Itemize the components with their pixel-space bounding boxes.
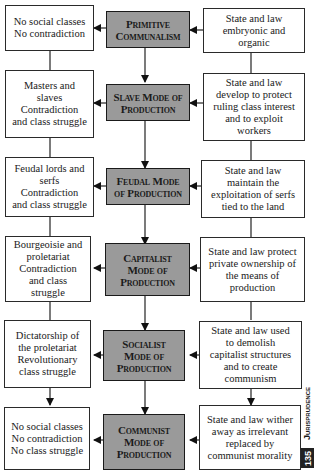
page-number: 135 (301, 448, 314, 468)
stage-6-left-box: No social classes No contradiction No cl… (4, 407, 90, 470)
stage-5-right-box: State and law used to demolish capitalis… (199, 321, 302, 389)
stage-5-left-box: Dictatorship of the proletariat Revoluti… (4, 320, 91, 388)
stage-2-right-box: State and law develop to protect ruling … (203, 73, 305, 141)
stage-5-center-box: Socialist Mode of Production (103, 330, 185, 381)
stage-2-center-box: Slave Mode of Production (106, 84, 190, 121)
stage-2-left-box: Masters and slaves Contradiction and cla… (5, 70, 94, 138)
stage-3-right-box: State and law maintain the exploitation … (201, 160, 305, 218)
stage-1-right-box: State and law embryonic and organic (203, 8, 305, 53)
stage-4-center-box: Capitalist Mode of Production (105, 243, 190, 296)
stage-1-left-box: No social classes No contradiction (5, 5, 94, 51)
section-title: Jurisprudence (302, 360, 312, 440)
stage-6-center-box: Communist Mode of Production (103, 414, 185, 470)
stage-4-right-box: State and law protect private ownership … (200, 237, 305, 302)
stage-3-center-box: Feudal Mode of Production (106, 168, 190, 205)
stage-6-right-box: State and law wither away as irrelevant … (199, 405, 301, 470)
stage-4-left-box: Bourgeoisie and proletariat Contradictio… (5, 236, 91, 302)
page-margin: Jurisprudence 135 (300, 360, 316, 470)
stage-1-center-box: Primitive Communalism (106, 11, 190, 48)
stage-3-left-box: Feudal lords and serfs Contradiction and… (5, 157, 94, 217)
